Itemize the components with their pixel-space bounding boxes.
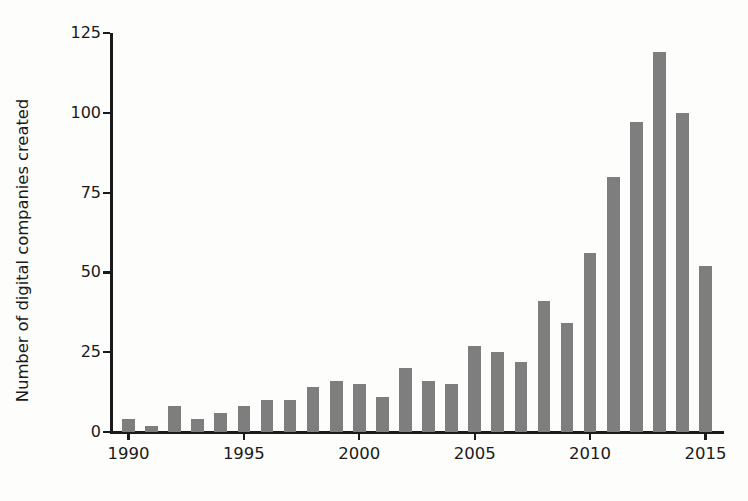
y-tick-75 — [103, 192, 110, 194]
bar — [122, 419, 135, 432]
y-tick-100 — [103, 112, 110, 114]
x-tick-1995 — [243, 432, 245, 440]
bar — [376, 397, 389, 432]
x-tick-2010 — [589, 432, 591, 440]
y-axis-title: Number of digital companies created — [0, 0, 44, 501]
bar — [445, 384, 458, 432]
bar — [307, 387, 320, 432]
bar — [214, 413, 227, 432]
y-tick-label-100: 100 — [70, 105, 101, 121]
y-tick-125 — [103, 32, 110, 34]
y-tick-label-75: 75 — [81, 185, 101, 201]
x-tick-label-2005: 2005 — [454, 446, 496, 463]
bar — [676, 113, 689, 432]
x-tick-label-1990: 1990 — [107, 446, 149, 463]
y-tick-label-25: 25 — [81, 344, 101, 360]
bar — [699, 266, 712, 432]
y-tick-25 — [103, 351, 110, 353]
bar — [284, 400, 297, 432]
x-tick-2015 — [704, 432, 706, 440]
x-tick-label-2010: 2010 — [569, 446, 611, 463]
bar — [353, 384, 366, 432]
bar — [653, 52, 666, 432]
bar — [468, 346, 481, 432]
bar — [538, 301, 551, 432]
bar — [630, 122, 643, 432]
x-tick-1990 — [127, 432, 129, 440]
bar — [168, 406, 181, 432]
bar — [399, 368, 412, 432]
bar — [584, 253, 597, 432]
y-tick-50 — [103, 271, 110, 273]
bar — [330, 381, 343, 432]
plot-area: 0255075100125 199019952000200520102015 — [110, 33, 724, 432]
x-tick-2005 — [474, 432, 476, 440]
y-tick-0 — [103, 431, 110, 433]
bar — [261, 400, 274, 432]
y-tick-label-125: 125 — [70, 25, 101, 41]
bar — [491, 352, 504, 432]
bar — [422, 381, 435, 432]
bar — [607, 177, 620, 432]
bar — [145, 426, 158, 432]
x-tick-label-1995: 1995 — [223, 446, 265, 463]
x-tick-2000 — [358, 432, 360, 440]
bar-chart-figure: Number of digital companies created 0255… — [0, 0, 748, 501]
x-tick-label-2015: 2015 — [685, 446, 727, 463]
bar — [238, 406, 251, 432]
bar — [515, 362, 528, 432]
y-tick-label-50: 50 — [81, 264, 101, 280]
y-tick-label-0: 0 — [91, 424, 101, 440]
x-tick-label-2000: 2000 — [338, 446, 380, 463]
bar — [191, 419, 204, 432]
bar — [561, 323, 574, 432]
